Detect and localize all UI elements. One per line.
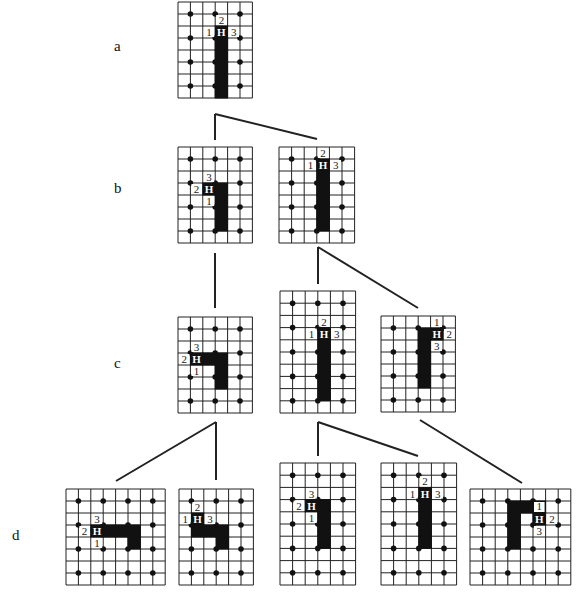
- lattice-dot: [441, 521, 447, 527]
- lattice-dot: [391, 397, 397, 403]
- lattice-dot: [237, 83, 243, 89]
- move-option-label: 1: [309, 328, 315, 340]
- lattice-dot: [480, 570, 486, 576]
- lattice-dot: [416, 546, 422, 552]
- lattice-dot: [315, 472, 321, 478]
- lattice-dot: [100, 570, 106, 576]
- lattice-dot: [480, 522, 486, 528]
- move-option-label: 2: [219, 14, 225, 26]
- move-option-label: 2: [82, 525, 88, 537]
- lattice-dot: [415, 373, 421, 379]
- move-option-label: 1: [194, 365, 200, 377]
- lattice-dot: [505, 498, 511, 504]
- move-option-label: 2: [195, 501, 201, 513]
- lattice-dot: [150, 522, 156, 528]
- lattice-dot: [555, 498, 561, 504]
- lattice-dot: [340, 300, 346, 306]
- move-option-label: 3: [334, 328, 340, 340]
- head-marker: H: [93, 525, 102, 537]
- lattice-dot: [391, 349, 397, 355]
- lattice-dot: [212, 326, 218, 332]
- lattice-dot: [314, 180, 320, 186]
- move-option-label: 2: [446, 328, 452, 340]
- move-option-label: 2: [321, 316, 327, 328]
- lattice-grid-c3: H123: [380, 315, 456, 413]
- move-option-label: 1: [309, 512, 315, 524]
- lattice-grid-d2: H213: [178, 488, 254, 586]
- lattice-dot: [315, 374, 321, 380]
- lattice-dot: [290, 570, 296, 576]
- lattice-dot: [416, 570, 422, 576]
- lattice-dot: [212, 59, 218, 65]
- lattice-dot: [391, 497, 397, 503]
- lattice-dot: [188, 204, 194, 210]
- lattice-grid-c1: H321: [177, 316, 253, 414]
- lattice-grid-d4: H213: [380, 462, 458, 586]
- head-marker: H: [192, 353, 201, 365]
- lattice-dot: [441, 546, 447, 552]
- lattice-dot: [76, 570, 82, 576]
- lattice-dot: [237, 180, 243, 186]
- lattice-dot: [391, 325, 397, 331]
- lattice-dot: [505, 546, 511, 552]
- lattice-dot: [188, 35, 194, 41]
- lattice-dot: [76, 546, 82, 552]
- move-option-label: 1: [94, 537, 100, 549]
- move-option-label: 1: [308, 159, 314, 171]
- lattice-dot: [213, 498, 219, 504]
- head-marker: H: [433, 328, 442, 340]
- lattice-dot: [480, 498, 486, 504]
- head-marker: H: [535, 513, 544, 525]
- lattice-dot: [339, 180, 345, 186]
- lattice-dot: [100, 498, 106, 504]
- lattice-dot: [188, 11, 194, 17]
- move-option-label: 3: [537, 525, 543, 537]
- lattice-dot: [340, 349, 346, 355]
- lattice-dot: [441, 570, 447, 576]
- lattice-dot: [441, 472, 447, 478]
- lattice-dot: [289, 156, 295, 162]
- move-option-label: 3: [94, 513, 100, 525]
- lattice-dot: [237, 59, 243, 65]
- lattice-dot: [340, 497, 346, 503]
- lattice-dot: [290, 300, 296, 306]
- connector-line: [215, 114, 317, 139]
- lattice-dot: [290, 349, 296, 355]
- move-option-label: 1: [410, 488, 416, 500]
- lattice-grid-c2: H213: [279, 290, 357, 414]
- lattice-grid-b2: H213: [278, 146, 356, 244]
- lattice-dot: [237, 204, 243, 210]
- lattice-dot: [314, 204, 320, 210]
- lattice-dot: [237, 156, 243, 162]
- lattice-dot: [212, 374, 218, 380]
- lattice-dot: [530, 570, 536, 576]
- lattice-dot: [238, 522, 244, 528]
- lattice-dot: [237, 374, 243, 380]
- move-option-label: 3: [194, 341, 200, 353]
- lattice-dot: [415, 397, 421, 403]
- lattice-dot: [237, 11, 243, 17]
- lattice-dot: [340, 398, 346, 404]
- lattice-grid-d1: H321: [65, 488, 166, 586]
- lattice-dot: [391, 546, 397, 552]
- lattice-dot: [188, 59, 194, 65]
- lattice-dot: [188, 156, 194, 162]
- lattice-dot: [315, 300, 321, 306]
- lattice-dot: [415, 325, 421, 331]
- lattice-dot: [314, 228, 320, 234]
- lattice-grid-d3: H321: [279, 462, 357, 586]
- lattice-dot: [189, 546, 195, 552]
- lattice-dot: [340, 374, 346, 380]
- lattice-dot: [480, 546, 486, 552]
- move-option-label: 1: [206, 195, 212, 207]
- lattice-dot: [530, 546, 536, 552]
- lattice-dot: [290, 325, 296, 331]
- lattice-dot: [237, 398, 243, 404]
- move-option-label: 3: [206, 171, 212, 183]
- lattice-dot: [125, 498, 131, 504]
- move-option-label: 2: [194, 183, 200, 195]
- move-option-label: 3: [434, 340, 440, 352]
- lattice-dot: [212, 83, 218, 89]
- lattice-dot: [290, 398, 296, 404]
- lattice-dot: [213, 570, 219, 576]
